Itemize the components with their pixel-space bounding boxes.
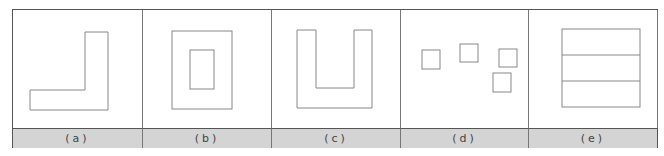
panel-a-label: (a)	[13, 128, 143, 148]
panel-b-label: (b)	[143, 128, 272, 148]
panel-c	[272, 10, 401, 128]
panel-e-label: (e)	[529, 128, 657, 148]
panel-a	[13, 10, 143, 128]
scattered-squares-icon	[401, 10, 529, 128]
figure-table: (a) (b) (c) (d) (e)	[12, 9, 658, 148]
nested-rectangles-icon	[143, 10, 272, 128]
panel-d-label: (d)	[401, 128, 529, 148]
panel-d	[401, 10, 529, 128]
l-shape-icon	[13, 10, 143, 128]
panel-e	[529, 10, 658, 128]
u-shape-icon	[272, 10, 401, 128]
panel-b	[143, 10, 272, 128]
panel-c-label: (c)	[272, 128, 401, 148]
banded-rectangle-icon	[529, 10, 658, 128]
